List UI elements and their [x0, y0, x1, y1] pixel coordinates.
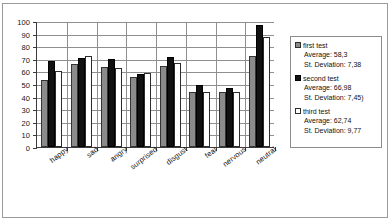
bar-neutral-third-test: [263, 37, 270, 147]
y-tick: [33, 148, 37, 149]
legend-average-third-test: Average: 62,74: [295, 116, 378, 126]
bar-surprised-third-test: [144, 73, 151, 147]
y-axis-tick-label: 90: [21, 30, 30, 39]
legend-head: second test: [295, 74, 378, 83]
bar-angry-third-test: [115, 68, 122, 147]
legend-swatch-icon-third-test: [295, 108, 301, 114]
legend-label-third-test: third test: [303, 107, 330, 116]
legend-swatch-icon-first-test: [295, 42, 301, 48]
bar-sad-first-test: [71, 64, 78, 147]
legend-average-first-test: Average: 58,3: [295, 50, 378, 60]
bar-group-happy: [37, 22, 67, 147]
legend-deviation-first-test: St. Deviation: 7,38: [295, 60, 378, 70]
legend-entry-first-test: first test Average: 58,3 St. Deviation: …: [295, 41, 378, 69]
bar-disgust-third-test: [174, 63, 181, 147]
legend-head: third test: [295, 107, 378, 116]
x-axis-labels: happysadangrysurpriseddisgustfearnervous…: [36, 150, 274, 192]
bar-fear-first-test: [189, 92, 196, 147]
bar-angry-first-test: [101, 67, 108, 147]
y-axis-tick-label: 70: [21, 55, 30, 64]
bar-surprised-second-test: [137, 74, 144, 147]
chart-legend: first test Average: 58,3 St. Deviation: …: [290, 36, 382, 148]
bar-angry-second-test: [108, 59, 115, 147]
legend-head: first test: [295, 41, 378, 50]
bar-group-disgust: [156, 22, 186, 147]
bar-nervous-second-test: [226, 88, 233, 147]
bar-groups: [37, 22, 274, 147]
bar-fear-third-test: [203, 92, 210, 147]
x-axis-label-neutral: neutral: [250, 150, 274, 172]
y-axis-tick-label: 100: [17, 18, 30, 27]
y-axis-tick-label: 30: [21, 106, 30, 115]
bar-neutral-first-test: [249, 56, 256, 147]
x-axis-label-surprised: surprised: [125, 150, 156, 177]
y-axis-tick-label: 10: [21, 131, 30, 140]
legend-deviation-third-test: St. Deviation: 9,77: [295, 126, 378, 136]
bar-nervous-third-test: [233, 92, 240, 147]
bar-nervous-first-test: [219, 92, 226, 147]
plot-canvas: [36, 22, 274, 148]
legend-swatch-icon-second-test: [295, 75, 301, 81]
x-axis-label-nervous: nervous: [218, 150, 245, 174]
x-axis-label-sad: sad: [81, 150, 96, 165]
bar-neutral-second-test: [256, 25, 263, 147]
bar-disgust-first-test: [160, 66, 167, 147]
legend-deviation-second-test: St. Deviation: 7,45): [295, 93, 378, 103]
y-axis-tick-label: 80: [21, 43, 30, 52]
legend-average-second-test: Average: 66,98: [295, 83, 378, 93]
bar-group-neutral: [244, 22, 274, 147]
bar-group-nervous: [215, 22, 245, 147]
bar-happy-second-test: [48, 61, 55, 147]
bar-group-fear: [185, 22, 215, 147]
legend-label-second-test: second test: [303, 74, 339, 83]
x-axis-label-disgust: disgust: [161, 150, 186, 172]
y-axis-tick-label: 20: [21, 118, 30, 127]
legend-entry-third-test: third test Average: 62,74 St. Deviation:…: [295, 107, 378, 135]
x-axis-label-fear: fear: [199, 150, 215, 165]
bar-surprised-first-test: [130, 77, 137, 147]
y-axis-tick-label: 40: [21, 93, 30, 102]
x-axis-label-angry: angry: [105, 150, 126, 169]
x-axis-label-happy: happy: [44, 150, 66, 170]
y-axis-tick-label: 50: [21, 81, 30, 90]
bar-sad-second-test: [78, 58, 85, 147]
y-axis-tick-label: 60: [21, 68, 30, 77]
bar-happy-third-test: [55, 71, 62, 147]
chart-screenshot: 1009080706050403020100 happysadangrysurp…: [0, 0, 392, 224]
y-axis-tick-label: 0: [26, 144, 30, 153]
bar-fear-second-test: [196, 85, 203, 147]
legend-entry-second-test: second test Average: 66,98 St. Deviation…: [295, 74, 378, 102]
bar-group-sad: [67, 22, 97, 147]
bar-sad-third-test: [85, 56, 92, 147]
legend-label-first-test: first test: [303, 41, 328, 50]
bar-disgust-second-test: [167, 57, 174, 147]
plot-area: 1009080706050403020100: [36, 22, 274, 148]
bar-group-angry: [96, 22, 126, 147]
bar-group-surprised: [126, 22, 156, 147]
bar-happy-first-test: [41, 80, 48, 147]
